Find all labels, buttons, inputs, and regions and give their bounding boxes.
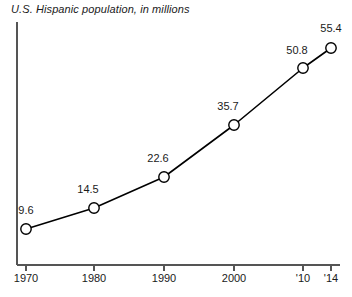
x-axis-tick-label: 1970 [14, 272, 38, 284]
data-point-label: 35.7 [217, 100, 238, 112]
data-point-label: 50.8 [286, 44, 307, 56]
data-point-marker [159, 172, 169, 182]
data-point-marker [298, 63, 308, 73]
data-point-markers [21, 43, 336, 234]
data-point-label: 9.6 [18, 204, 33, 216]
data-series-line [26, 48, 331, 229]
x-axis-tick-label: 2000 [222, 272, 246, 284]
x-axis-tick-label: '10 [296, 272, 310, 284]
data-point-label: 55.4 [320, 22, 341, 34]
data-point-label: 14.5 [77, 183, 98, 195]
x-axis-tick-label: 1990 [152, 272, 176, 284]
chart-container: U.S. Hispanic population, in millions 9.… [0, 0, 352, 297]
x-axis-tick-label: '14 [324, 272, 338, 284]
data-point-marker [89, 203, 99, 213]
x-axis-ticks [26, 265, 331, 271]
data-point-marker [21, 224, 31, 234]
axes-group [17, 22, 340, 265]
data-point-marker [326, 43, 336, 53]
data-point-label: 22.6 [147, 152, 168, 164]
data-point-marker [229, 120, 239, 130]
x-axis-tick-label: 1980 [82, 272, 106, 284]
